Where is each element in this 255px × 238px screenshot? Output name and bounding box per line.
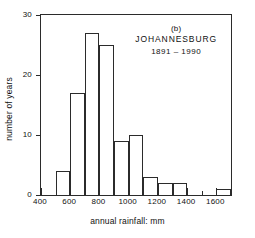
panel-id-label: (b) xyxy=(135,23,217,34)
histogram-bar xyxy=(70,93,85,195)
y-tick-label: 30 xyxy=(10,10,32,19)
x-tick-label: 400 xyxy=(33,197,47,206)
y-tick xyxy=(36,15,41,16)
figure: (b) JOHANNESBURG 1891 – 1990 40060080010… xyxy=(0,0,255,238)
histogram-bar xyxy=(143,177,158,195)
period-label: 1891 – 1990 xyxy=(135,46,217,57)
chart-annotation: (b) JOHANNESBURG 1891 – 1990 xyxy=(135,23,217,57)
x-tick-minor xyxy=(231,191,232,195)
x-tick-label: 1200 xyxy=(148,197,167,206)
x-tick-label: 800 xyxy=(91,197,105,206)
histogram-bar xyxy=(56,171,71,195)
histogram-bar xyxy=(173,183,188,195)
histogram-bar xyxy=(99,45,114,195)
plot-area: (b) JOHANNESBURG 1891 – 1990 xyxy=(40,14,232,196)
x-tick-minor xyxy=(143,191,144,195)
histogram-bar xyxy=(129,135,144,195)
histogram-bar xyxy=(85,33,100,195)
x-tick-minor xyxy=(173,191,174,195)
station-name-label: JOHANNESBURG xyxy=(135,34,217,46)
y-tick xyxy=(36,135,41,136)
x-tick-major xyxy=(129,188,130,195)
histogram-bar xyxy=(216,189,231,195)
x-tick-major xyxy=(41,188,42,195)
x-tick-minor xyxy=(85,191,86,195)
y-tick-label: 0 xyxy=(10,190,32,199)
x-tick-minor xyxy=(114,191,115,195)
x-tick-label: 1600 xyxy=(206,197,225,206)
y-tick xyxy=(36,195,41,196)
x-tick-minor xyxy=(202,191,203,195)
x-tick-label: 1000 xyxy=(118,197,137,206)
x-tick-major xyxy=(187,188,188,195)
x-tick-label: 1400 xyxy=(177,197,196,206)
histogram-bar xyxy=(114,141,129,195)
x-tick-major xyxy=(216,188,217,195)
x-tick-major xyxy=(158,188,159,195)
y-axis-title: number of years xyxy=(4,54,14,164)
x-axis-title: annual rainfall: mm xyxy=(0,216,255,226)
x-tick-label: 600 xyxy=(62,197,76,206)
y-tick xyxy=(36,75,41,76)
histogram-bar xyxy=(158,183,173,195)
x-tick-major xyxy=(99,188,100,195)
x-tick-minor xyxy=(56,191,57,195)
x-tick-major xyxy=(70,188,71,195)
